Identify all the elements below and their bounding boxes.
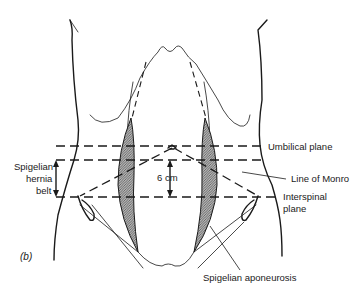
panel-label: (b): [20, 251, 32, 262]
left-spigelian-aponeurosis-zone: [118, 118, 138, 252]
hernia-belt-label-1: Spigelian: [14, 161, 53, 172]
spigelian-aponeurosis-label: Spigelian aponeurosis: [203, 272, 297, 283]
rib-cage-outline: [90, 46, 250, 126]
spigelian-hernia-diagram: Umbilical plane Line of Monro Interspina…: [0, 0, 357, 294]
distance-label: 6 cm: [157, 172, 178, 183]
interspinal-plane-label-1: Interspinal: [283, 191, 327, 202]
hernia-belt-label-2: hernia: [26, 173, 53, 184]
line-of-monro-label: Line of Monro: [291, 173, 349, 184]
right-torso-outline: [258, 20, 282, 256]
umbilical-plane-label: Umbilical plane: [268, 141, 332, 152]
interspinal-plane-label-2: plane: [283, 203, 306, 214]
hernia-belt-label-3: belt: [36, 185, 52, 196]
anatomy-drawing: Umbilical plane Line of Monro Interspina…: [0, 0, 357, 294]
left-torso-outline: [54, 20, 79, 260]
